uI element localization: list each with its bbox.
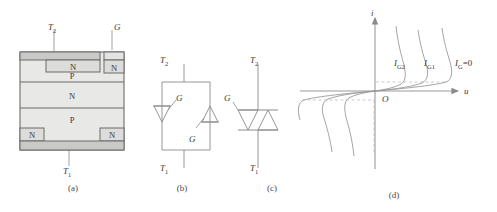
t1-electrode [20, 141, 124, 150]
gate-lead-c [233, 102, 238, 110]
n-label-bottom-right: N [109, 130, 115, 140]
part-b-t2-label: T2 [160, 55, 168, 67]
ig0-equals-zero: =0 [463, 58, 473, 68]
part-c-gate-label: G [224, 93, 231, 103]
triangle-down [238, 110, 258, 130]
n-label-middle: N [69, 91, 75, 101]
origin-letter: O [382, 94, 389, 104]
part-a-t2-label: T2 [48, 22, 56, 34]
n-label-top-right: N [111, 63, 117, 73]
triac-structure-svg: N N P N P N N [14, 20, 134, 170]
n-label-bottom-left: N [29, 130, 35, 140]
gate-letter: G [114, 22, 121, 32]
p-label-lower: P [70, 115, 75, 125]
caption-d: (d) [374, 190, 414, 200]
part-b-gate-upper-label: G [176, 93, 183, 103]
i-axis-letter: i [371, 8, 374, 18]
caption-b: (b) [162, 183, 202, 193]
vi-characteristic-svg [300, 4, 490, 179]
annotation-ig1: IG1 [424, 58, 435, 70]
annotation-ig2: IG2 [394, 58, 405, 70]
ig2-subscript: G2 [397, 63, 405, 70]
caption-c: (c) [252, 183, 292, 193]
p-label-upper: P [70, 71, 75, 81]
t1-subscript-b: 1 [165, 168, 168, 175]
part-c-t1-label: T1 [250, 163, 258, 175]
i-axis-label: i [371, 8, 374, 18]
curve-ig2-quadrant3 [345, 91, 375, 156]
part-a-gate-label: G [114, 22, 121, 32]
part-b-gate-lower-label: G [189, 134, 196, 144]
right-gate-lead [196, 118, 204, 128]
u-axis-letter: u [464, 86, 469, 96]
u-axis-label: u [464, 86, 469, 96]
gate-letter-c: G [224, 93, 231, 103]
gate-electrode [104, 52, 124, 60]
triac-symbol-svg [232, 60, 302, 180]
gate-letter-upper: G [176, 93, 183, 103]
curve-ig0-quadrant1 [375, 28, 452, 91]
caption-a: (a) [53, 183, 93, 193]
t1-subscript-c: 1 [255, 168, 258, 175]
t2-subscript-b: 2 [165, 60, 168, 67]
gate-letter-lower: G [189, 134, 196, 144]
part-b-figure [152, 60, 232, 180]
part-b-t1-label: T1 [160, 163, 168, 175]
triangle-up [258, 110, 278, 130]
part-c-t2-label: T2 [250, 55, 258, 67]
left-gate-lead [168, 100, 176, 110]
t2-subscript-c: 2 [255, 60, 258, 67]
t2-electrode [20, 52, 100, 60]
t1-subscript: 1 [68, 171, 71, 178]
part-a-t1-label: T1 [63, 166, 71, 178]
ig1-subscript: G1 [427, 63, 435, 70]
part-d-figure [300, 4, 490, 179]
origin-label: O [382, 94, 389, 104]
equivalent-circuit-svg [152, 60, 232, 180]
t2-subscript: 2 [53, 27, 56, 34]
part-a-figure: N N P N P N N [14, 20, 134, 170]
annotation-ig0: IG=0 [455, 58, 472, 70]
curve-ig0-quadrant3 [298, 91, 375, 120]
part-c-figure [232, 60, 302, 180]
